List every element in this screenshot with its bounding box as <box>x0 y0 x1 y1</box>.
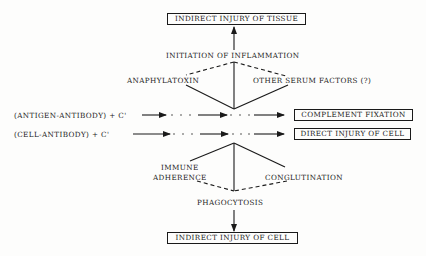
direct-injury-cell-box: DIRECT INJURY OF CELL <box>294 128 411 140</box>
indirect-injury-tissue-box: INDIRECT INJURY OF TISSUE <box>167 13 306 25</box>
complement-pathway-diagram: INDIRECT INJURY OF TISSUE INITIATION OF … <box>0 0 426 256</box>
antigen-antibody-input: (ANTIGEN-ANTIBODY) + C' <box>14 112 127 119</box>
indirect-injury-cell-box: INDIRECT INJURY OF CELL <box>167 232 298 244</box>
anaphylatoxin-label: ANAPHYLATOXIN <box>127 77 199 84</box>
cell-antibody-input: (CELL-ANTIBODY) + C' <box>14 131 109 138</box>
phagocytosis-label: PHAGOCYTOSIS <box>197 199 263 206</box>
initiation-label: INITIATION OF INFLAMMATION <box>166 52 299 59</box>
adherence-label: ADHERENCE <box>153 174 207 181</box>
complement-fixation-box: COMPLEMENT FIXATION <box>294 109 413 121</box>
immune-label: IMMUNE <box>161 164 199 171</box>
other-serum-factors-label: OTHER SERUM FACTORS (?) <box>253 77 371 84</box>
conglutination-label: CONGLUTINATION <box>265 174 343 181</box>
